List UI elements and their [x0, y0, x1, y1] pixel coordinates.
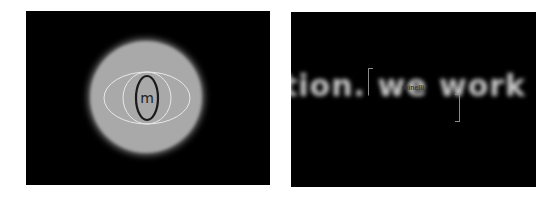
brand-label: minelli — [402, 84, 424, 91]
focus-bracket-left — [368, 68, 373, 96]
logo-letter: m — [140, 90, 154, 106]
focus-bracket-right — [455, 94, 460, 122]
video-frame-right: tion. we work minelli — [291, 12, 536, 187]
minelli-logo-icon: m — [26, 11, 270, 185]
video-frame-left: m — [26, 11, 270, 185]
